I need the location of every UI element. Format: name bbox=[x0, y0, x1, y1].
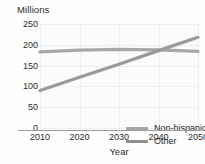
series-line-other bbox=[40, 37, 198, 90]
x-axis-tick-labels: 20102020203020402050 bbox=[40, 132, 198, 146]
x-tick-label: 2020 bbox=[69, 132, 89, 142]
x-tick-label: 2040 bbox=[148, 132, 168, 142]
y-tick-label: 150 bbox=[12, 61, 38, 71]
plot-area: Non-hispanic whiteOther bbox=[40, 24, 198, 128]
x-tick-label: 2010 bbox=[30, 132, 50, 142]
y-axis-title: Millions bbox=[17, 4, 49, 15]
y-tick-label: 100 bbox=[12, 81, 38, 91]
gridline-vertical bbox=[198, 24, 199, 128]
y-tick-label: 50 bbox=[12, 102, 38, 112]
y-axis-tick-labels: 250200150100500 bbox=[10, 24, 38, 128]
line-chart: Millions 250200150100500 Non-hispanic wh… bbox=[0, 0, 205, 164]
x-tick-label: 2050 bbox=[188, 132, 205, 142]
y-tick-label: 200 bbox=[12, 40, 38, 50]
y-tick-label: 250 bbox=[12, 19, 38, 29]
series-line-non-hispanic-white bbox=[40, 49, 198, 51]
x-axis-line bbox=[18, 130, 198, 131]
series-container bbox=[40, 24, 198, 128]
x-axis-title: Year bbox=[40, 146, 198, 157]
x-tick-label: 2030 bbox=[109, 132, 129, 142]
